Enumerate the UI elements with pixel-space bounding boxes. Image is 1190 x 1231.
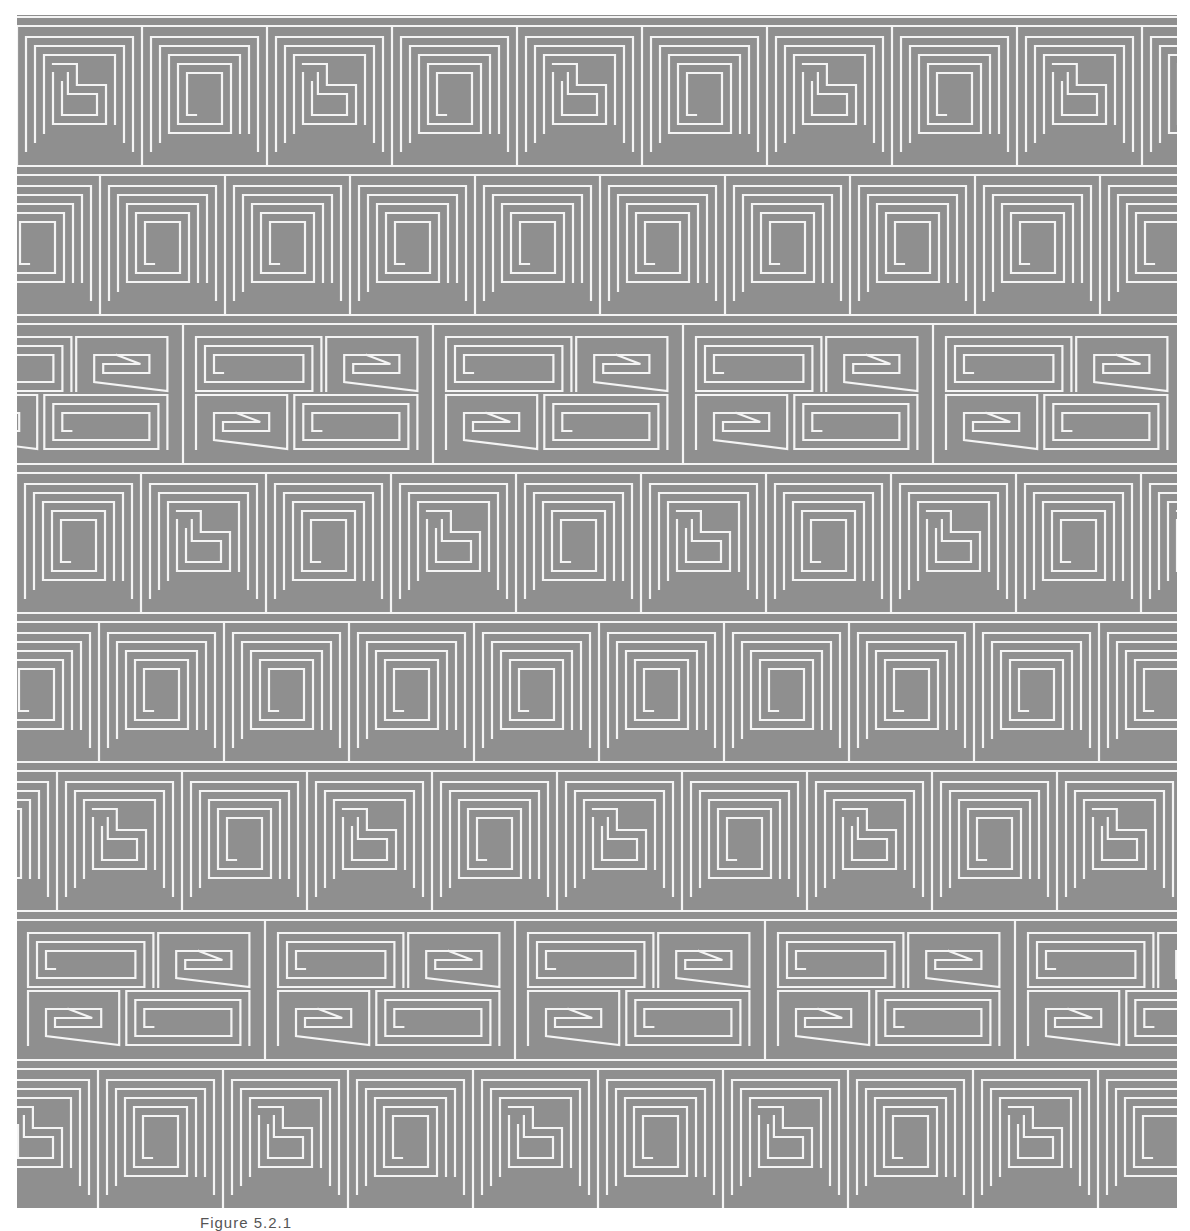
figure-caption: Figure 5.2.1 [200,1214,292,1231]
meander-lines [17,17,1177,1207]
meander-pattern-figure [17,15,1177,1208]
meander-pattern-graphic [17,15,1177,1208]
